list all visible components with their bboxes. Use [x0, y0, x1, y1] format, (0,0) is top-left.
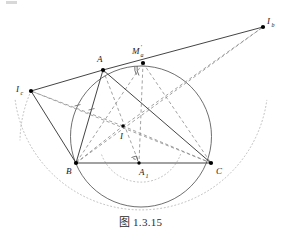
dashed-line-group [31, 27, 263, 163]
dotted-arc-group [15, 91, 267, 210]
line-bisector-A-A1 [103, 70, 139, 163]
line-Ma-A1 [139, 63, 143, 163]
figure-container: A B C I A 1 M a ′ I b I c 图 1 [0, 0, 281, 247]
scan-artifact [6, 1, 17, 4]
solid-line-group [31, 27, 263, 163]
excircle-arc-left-dotted [20, 91, 31, 140]
label-Ic-subscript: c [21, 90, 24, 96]
label-Ib: I b [266, 16, 275, 28]
label-I: I [119, 131, 124, 141]
line-B-Ib [76, 27, 263, 163]
segment-Ic-A [31, 70, 103, 91]
label-Ib-subscript: b [272, 22, 275, 28]
label-Ib-base: I [266, 16, 271, 26]
point-A1 [137, 161, 140, 164]
label-Ma: M a ′ [131, 44, 144, 58]
label-Ic-base: I [15, 84, 20, 94]
label-group: A B C I A 1 M a ′ I b I c [15, 16, 275, 179]
label-Ma-base: M [131, 46, 140, 56]
label-Ic: I c [15, 84, 24, 96]
line-bisector-C-I [123, 126, 211, 163]
point-Ic [29, 89, 33, 93]
caption-number: 1.3.15 [133, 216, 162, 228]
label-Ma-prime: ′ [141, 44, 143, 50]
point-C [209, 161, 213, 165]
label-A1-base: A [138, 167, 145, 177]
figure-caption: 图 1.3.15 [0, 213, 281, 229]
right-angle-mark [132, 156, 138, 161]
point-A [101, 68, 105, 72]
label-A1: A 1 [138, 167, 149, 179]
point-Ib [261, 25, 265, 29]
point-I [121, 124, 124, 127]
label-C: C [216, 166, 223, 176]
segment-Ic-B [31, 91, 76, 163]
line-Ic-C [31, 91, 211, 163]
label-A1-subscript: 1 [146, 173, 149, 179]
geometry-diagram: A B C I A 1 M a ′ I b I c [0, 0, 281, 247]
point-B [74, 161, 78, 165]
label-B: B [66, 166, 72, 176]
label-Ma-subscript: a [141, 52, 144, 58]
circumcircle [71, 66, 212, 207]
caption-prefix: 图 [119, 216, 130, 228]
segment-A-Ib [103, 27, 263, 70]
point-Ma [141, 61, 145, 65]
tick-mark-group [75, 105, 95, 111]
label-A: A [96, 54, 103, 64]
